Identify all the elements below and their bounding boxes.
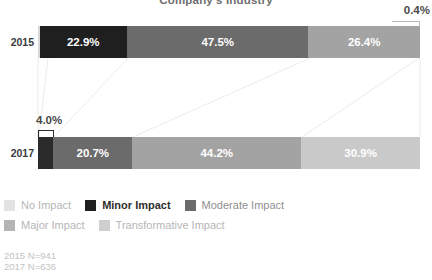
stacked-bar-2015: 0.4% 22.9% 47.5% 26.4%	[38, 26, 420, 58]
segment-value: 47.5%	[201, 36, 234, 48]
segment-2015-minor-impact[interactable]: 22.9%	[40, 26, 127, 58]
legend-swatch-icon	[99, 220, 110, 231]
callout-label: 4.0%	[36, 114, 80, 127]
year-label-2015: 2015	[2, 26, 34, 58]
callout-2015-leader-line	[392, 21, 420, 27]
bar-row-2017: 2017 4.0% 20.7% 44.2% 30.9%	[0, 137, 432, 169]
legend-item-transformative-impact[interactable]: Transformative Impact	[99, 219, 225, 231]
callout-2015-no-impact: 0.4%	[388, 4, 430, 17]
segment-2017-minor-impact[interactable]: 4.0%	[38, 137, 53, 169]
legend-label: No Impact	[21, 199, 71, 211]
stacked-bar-chart: Company's Industry 2015 0.4% 22.9% 47.5%…	[0, 0, 432, 280]
stacked-bar-2017: 4.0% 20.7% 44.2% 30.9%	[38, 137, 420, 169]
segment-value: 20.7%	[76, 147, 109, 159]
legend-label: Minor Impact	[102, 199, 170, 211]
segment-2017-moderate-impact[interactable]: 20.7%	[53, 137, 132, 169]
legend-label: Major Impact	[21, 219, 85, 231]
chart-legend: No Impact Minor Impact Moderate Impact M…	[4, 195, 428, 235]
callout-2017-minor-impact: 4.0%	[36, 114, 80, 127]
footnote-2015-sample-size: 2015 N=941	[4, 250, 56, 261]
callout-label: 0.4%	[388, 4, 430, 17]
segment-value: 22.9%	[67, 36, 100, 48]
legend-item-no-impact[interactable]: No Impact	[4, 199, 71, 211]
legend-item-major-impact[interactable]: Major Impact	[4, 219, 85, 231]
segment-value: 44.2%	[200, 147, 233, 159]
segment-2015-major-impact[interactable]: 26.4%	[308, 26, 420, 58]
chart-footnotes: 2015 N=941 2017 N=636	[4, 250, 56, 272]
footnote-2017-sample-size: 2017 N=636	[4, 261, 56, 272]
segment-2015-moderate-impact[interactable]: 47.5%	[127, 26, 308, 58]
legend-label: Moderate Impact	[202, 199, 285, 211]
legend-swatch-icon	[185, 200, 196, 211]
legend-label: Transformative Impact	[116, 219, 225, 231]
legend-swatch-icon	[85, 200, 96, 211]
legend-swatch-icon	[4, 200, 15, 211]
segment-2017-major-impact[interactable]: 44.2%	[132, 137, 301, 169]
legend-row-2: Major Impact Transformative Impact	[4, 215, 428, 235]
chart-title: Company's Industry	[0, 0, 432, 6]
bar-row-2015: 2015 0.4% 22.9% 47.5% 26.4%	[0, 26, 432, 58]
year-label-2017: 2017	[2, 137, 34, 169]
legend-item-moderate-impact[interactable]: Moderate Impact	[185, 199, 285, 211]
callout-2017-bracket	[38, 130, 54, 137]
legend-item-minor-impact[interactable]: Minor Impact	[85, 199, 170, 211]
segment-2017-transformative-impact[interactable]: 30.9%	[301, 137, 420, 169]
legend-row-1: No Impact Minor Impact Moderate Impact	[4, 195, 428, 215]
segment-value: 26.4%	[348, 36, 381, 48]
segment-value: 30.9%	[344, 147, 377, 159]
legend-swatch-icon	[4, 220, 15, 231]
